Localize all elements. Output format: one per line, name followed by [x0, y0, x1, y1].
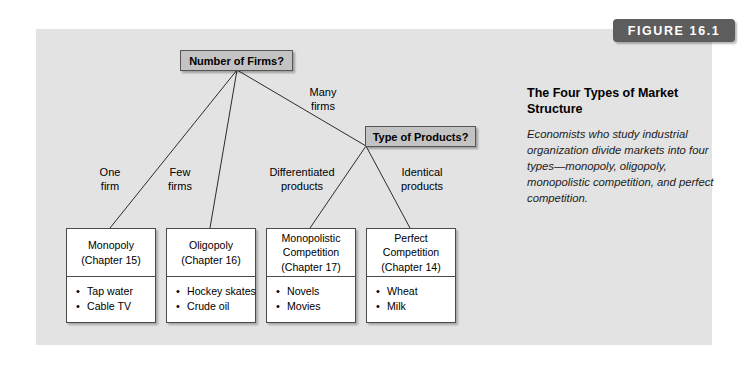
decision-node-type-of-products: Type of Products? — [365, 126, 476, 147]
edge-label-many-firms: Many firms — [296, 85, 350, 113]
outcome-name: Perfect Competition — [367, 231, 455, 259]
edge-label-line-1: Few — [156, 165, 204, 179]
figure-caption: The Four Types of Market Structure Econo… — [527, 86, 723, 206]
edge-label-line-2: products — [386, 179, 458, 193]
outcome-box-monopoly: Monopoly (Chapter 15) Tap water Cable TV — [66, 228, 156, 323]
outcome-box-monopolistic-competition: Monopolistic Competition (Chapter 17) No… — [266, 228, 356, 323]
edge-label-line-1: Differentiated — [252, 165, 352, 179]
outcome-header: Perfect Competition (Chapter 14) — [367, 229, 455, 277]
list-item: Milk — [376, 299, 455, 314]
outcome-box-oligopoly: Oligopoly (Chapter 16) Hockey skates Cru… — [166, 228, 256, 323]
edge-label-line-1: Many — [296, 85, 350, 99]
outcome-example-list: Novels Movies — [267, 277, 355, 322]
outcome-example-list: Tap water Cable TV — [67, 277, 155, 322]
list-item: Hockey skates — [176, 284, 255, 299]
outcome-chapter: (Chapter 15) — [81, 253, 140, 267]
outcome-name: Monopoly — [88, 238, 134, 252]
outcome-header: Monopolistic Competition (Chapter 17) — [267, 229, 355, 277]
edge-label-line-1: One — [86, 165, 134, 179]
figure-number-banner: FIGURE 16.1 — [613, 19, 735, 42]
decision-node-label: Number of Firms? — [189, 55, 284, 67]
edge-label-one-firm: One firm — [86, 165, 134, 193]
edge-label-line-2: products — [252, 179, 352, 193]
outcome-header: Monopoly (Chapter 15) — [67, 229, 155, 277]
caption-body: Economists who study industrial organiza… — [527, 126, 723, 206]
decision-node-number-of-firms: Number of Firms? — [180, 50, 293, 71]
edge-label-line-2: firms — [296, 99, 350, 113]
edge-label-line-2: firm — [86, 179, 134, 193]
outcome-example-list: Wheat Milk — [367, 277, 455, 322]
outcome-chapter: (Chapter 14) — [381, 260, 440, 274]
edge-label-identical-products: Identical products — [386, 165, 458, 193]
outcome-header: Oligopoly (Chapter 16) — [167, 229, 255, 277]
figure-number-label: FIGURE 16.1 — [628, 24, 721, 38]
list-item: Tap water — [76, 284, 155, 299]
list-item: Cable TV — [76, 299, 155, 314]
outcome-chapter: (Chapter 17) — [281, 260, 340, 274]
caption-title: The Four Types of Market Structure — [527, 86, 723, 117]
edge-label-line-1: Identical — [386, 165, 458, 179]
outcome-name: Oligopoly — [189, 238, 233, 252]
list-item: Crude oil — [176, 299, 255, 314]
edge-label-differentiated-products: Differentiated products — [252, 165, 352, 193]
list-item: Movies — [276, 299, 355, 314]
edge-label-few-firms: Few firms — [156, 165, 204, 193]
outcome-name: Monopolistic Competition — [267, 231, 355, 259]
edge-label-line-2: firms — [156, 179, 204, 193]
list-item: Novels — [276, 284, 355, 299]
outcome-example-list: Hockey skates Crude oil — [167, 277, 255, 322]
list-item: Wheat — [376, 284, 455, 299]
decision-node-label: Type of Products? — [373, 131, 469, 143]
outcome-box-perfect-competition: Perfect Competition (Chapter 14) Wheat M… — [366, 228, 456, 323]
outcome-chapter: (Chapter 16) — [181, 253, 240, 267]
